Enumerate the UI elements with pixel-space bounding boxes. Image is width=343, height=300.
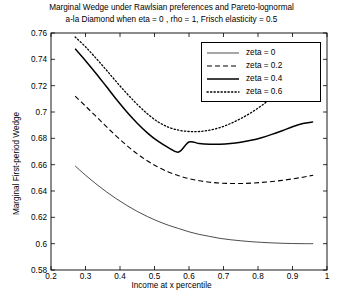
chart-legend: zeta = 0 zeta = 0.2 zeta = 0.4 zeta = 0.…: [201, 42, 321, 102]
series-line: [75, 166, 313, 244]
legend-item: zeta = 0.6: [202, 85, 320, 98]
legend-line-sample-zeta-0: [206, 47, 240, 59]
legend-item: zeta = 0.4: [202, 72, 320, 85]
series-line: [75, 96, 313, 183]
legend-item: zeta = 0.2: [202, 59, 320, 72]
chart-figure: Marginal Wedge under Rawlsian preference…: [0, 0, 343, 300]
legend-label: zeta = 0.6: [246, 87, 282, 96]
legend-label: zeta = 0.2: [246, 61, 282, 70]
legend-label: zeta = 0.4: [246, 74, 282, 83]
legend-line-sample-zeta-02: [206, 60, 240, 72]
legend-item: zeta = 0: [202, 46, 320, 59]
legend-line-sample-zeta-06: [206, 86, 240, 98]
legend-line-sample-zeta-04: [206, 73, 240, 85]
legend-label: zeta = 0: [246, 48, 275, 57]
